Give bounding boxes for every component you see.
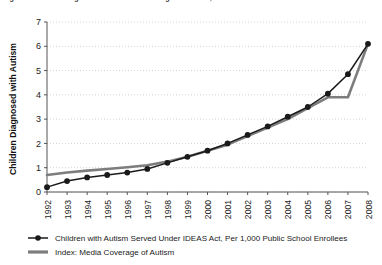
x-tick-label: 1995: [103, 200, 113, 219]
y-tick-label: 3: [36, 114, 41, 124]
series-line-media-coverage: [47, 44, 368, 175]
data-point-marker: [124, 170, 130, 176]
data-point-marker: [345, 71, 351, 77]
data-point-marker: [144, 166, 150, 172]
x-tick-label: 1996: [123, 200, 133, 219]
x-tick-label: 1993: [63, 200, 73, 219]
x-tick-label: 1997: [143, 200, 153, 219]
y-tick-label: 1: [36, 163, 41, 173]
gridlines-group: [44, 22, 368, 192]
data-point-marker: [185, 154, 191, 160]
y-axis-label: Children Diagnosed with Autism: [8, 43, 18, 175]
y-tick-label: 0: [36, 187, 41, 197]
data-point-marker: [365, 41, 371, 47]
x-tick-label: 1998: [163, 200, 173, 219]
data-point-marker: [64, 178, 70, 184]
x-tick-label: 1999: [183, 200, 193, 219]
data-point-marker: [164, 160, 170, 166]
x-tick-label: 1994: [83, 200, 93, 219]
data-point-marker: [84, 175, 90, 181]
y-tick-labels-group: 01234567: [36, 17, 41, 197]
x-tick-label: 2002: [243, 200, 253, 219]
y-tick-label: 6: [36, 41, 41, 51]
legend-label-media: Index: Media Coverage of Autism: [55, 248, 174, 257]
legend-marker-autism: [35, 235, 41, 241]
data-point-marker: [104, 172, 110, 178]
x-tick-label: 2005: [303, 200, 313, 219]
y-axis-title-group: Children Diagnosed with Autism: [8, 43, 18, 175]
x-tick-label: 2008: [364, 200, 374, 219]
series-line-autism-diagnoses: [47, 44, 368, 187]
legend-label-autism: Children with Autism Served Under IDEAS …: [55, 234, 347, 243]
series-markers-autism: [44, 41, 371, 190]
y-tick-label: 5: [36, 66, 41, 76]
y-tick-label: 4: [36, 90, 41, 100]
x-tick-label: 2000: [203, 200, 213, 219]
y-tick-label: 2: [36, 139, 41, 149]
data-point-marker: [305, 104, 311, 110]
chart-container: Figure 1. Autism Diagnoses and Media Cov…: [0, 0, 382, 265]
chart-svg: Children Diagnosed with Autism 01234567 …: [0, 0, 382, 265]
x-tick-label: 2003: [263, 200, 273, 219]
data-point-marker: [245, 132, 251, 138]
x-tick-label: 2004: [283, 200, 293, 219]
legend: Children with Autism Served Under IDEAS …: [28, 234, 347, 257]
x-tick-label: 1992: [43, 200, 53, 219]
data-point-marker: [225, 141, 231, 147]
data-point-marker: [325, 91, 331, 97]
x-tick-label: 2007: [343, 200, 353, 219]
x-tick-label: 2006: [323, 200, 333, 219]
data-point-marker: [265, 124, 271, 130]
data-point-marker: [44, 184, 50, 190]
data-point-marker: [285, 114, 291, 120]
plot-area-wrapper: Children Diagnosed with Autism 01234567 …: [0, 0, 382, 265]
y-tick-label: 7: [36, 17, 41, 27]
x-tick-label: 2001: [223, 200, 233, 219]
data-point-marker: [205, 148, 211, 154]
x-tick-labels-group: 1992199319941995199619971998199920002001…: [43, 200, 374, 219]
